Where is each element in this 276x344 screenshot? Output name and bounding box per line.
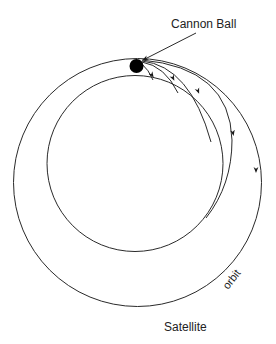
trajectory-3-arrow-icon [193,82,198,91]
satellite-label: Satellite [164,320,207,334]
trajectory-4 [142,60,232,218]
orbit-circle [14,59,262,307]
cannon-ball [130,59,144,73]
newton-cannonball-diagram: Cannon Ball Satellite orbit [0,0,276,344]
cannon-ball-label: Cannon Ball [171,17,236,31]
trajectory-3 [142,61,211,142]
trajectory-2 [142,62,178,93]
orbit-label: orbit [220,267,243,291]
orbit-arrow-icon [255,160,256,170]
cannon-ball-pointer [145,33,196,59]
earth-circle [47,76,223,252]
